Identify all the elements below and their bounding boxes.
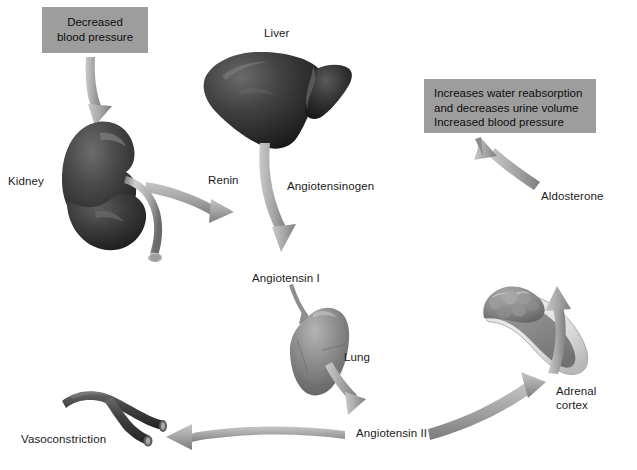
- label-vasoconstriction: Vasoconstriction: [21, 433, 106, 446]
- label-angiotensinogen: Angiotensinogen: [287, 180, 374, 193]
- arrow-lung-to-angiotensin-ii: [325, 362, 366, 415]
- callout-increases-water-reabsorption: Increases water reabsorption and decreas…: [424, 79, 596, 133]
- label-lung: Lung: [344, 351, 370, 364]
- arrow-liver-to-angiotensin-i: [259, 143, 296, 252]
- arrow-aldosterone-to-effects: [474, 137, 540, 190]
- adrenal-gland-illustration: [483, 286, 587, 374]
- label-angiotensin-i: Angiotensin I: [252, 272, 320, 285]
- label-aldosterone: Aldosterone: [541, 190, 603, 203]
- label-renin: Renin: [208, 174, 239, 187]
- arrow-angiotensin-ii-to-vasoconstriction: [166, 424, 345, 450]
- diagram-canvas: Decreased blood pressure Increases water…: [0, 0, 637, 470]
- arrow-bp-to-kidney: [86, 57, 112, 126]
- callout-decreased-blood-pressure: Decreased blood pressure: [42, 7, 148, 53]
- label-kidney: Kidney: [8, 175, 44, 188]
- diagram-graphics: [0, 0, 637, 470]
- label-angiotensin-ii: Angiotensin II: [356, 427, 427, 440]
- liver-illustration: [204, 52, 352, 149]
- arrow-angiotensin-ii-to-adrenal: [428, 372, 546, 440]
- label-liver: Liver: [264, 27, 289, 40]
- label-adrenal-cortex: Adrenal cortex: [556, 384, 596, 412]
